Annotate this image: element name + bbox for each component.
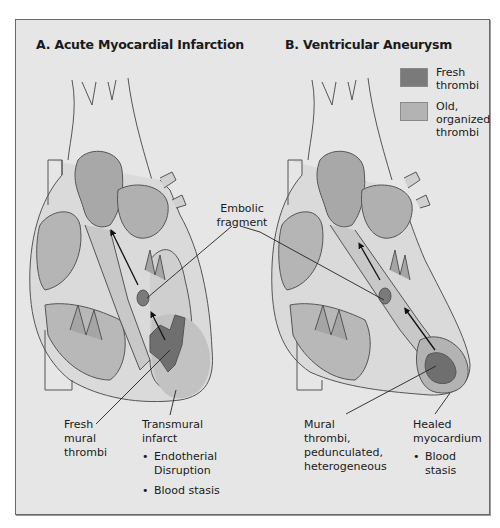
- label-fresh-mural-thrombi: Fresh mural thrombi: [64, 418, 114, 460]
- label-mural-thrombi-pedunculated: Mural thrombi, pedunculated, heterogeneo…: [304, 418, 384, 474]
- heart-b: [272, 78, 470, 395]
- infarct-bullet-list: Endotherial Disruption Blood stasis: [142, 450, 242, 498]
- label-transmural-infarct: Transmural infarct: [142, 418, 212, 446]
- heart-a: [30, 78, 213, 402]
- bullet-endotherial-disruption: Endotherial Disruption: [142, 450, 242, 478]
- label-embolic-fragment: Embolic fragment: [212, 202, 272, 230]
- healed-bullet-list: Blood stasis: [413, 450, 463, 478]
- label-healed-myocardium: Healed myocardium: [413, 418, 488, 446]
- bullet-blood-stasis-b: Blood stasis: [413, 450, 463, 478]
- label-transmural-infarct-group: Transmural infarct Endotherial Disruptio…: [142, 418, 242, 504]
- label-healed-myocardium-group: Healed myocardium Blood stasis: [413, 418, 488, 484]
- bullet-blood-stasis-a: Blood stasis: [142, 484, 242, 498]
